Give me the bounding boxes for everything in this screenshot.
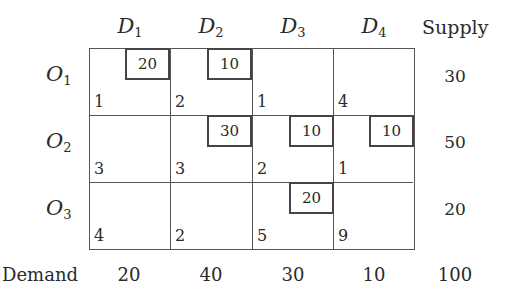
row-subscript: 1 xyxy=(63,73,71,88)
column-header-d1: D1 xyxy=(100,14,160,40)
cell-o2-d1: 3 xyxy=(90,116,171,183)
supply-header: Supply xyxy=(422,16,488,38)
cell-o3-d2: 2 xyxy=(171,183,253,249)
cell-o1-d4: 4 xyxy=(334,49,413,116)
supply-o1: 30 xyxy=(430,66,480,86)
cell-o2-d4: 10 1 xyxy=(334,116,413,183)
cost-value: 1 xyxy=(257,92,267,111)
column-subscript: 4 xyxy=(378,25,386,40)
row-header-o2: O2 xyxy=(46,129,86,155)
cell-o1-d2: 10 2 xyxy=(171,49,253,116)
row-letter: O xyxy=(46,196,63,220)
row-subscript: 2 xyxy=(63,140,71,155)
cell-o1-d3: 1 xyxy=(253,49,334,116)
cell-o3-d3: 20 5 xyxy=(253,183,334,249)
supply-o2: 50 xyxy=(430,132,480,152)
cell-o3-d1: 4 xyxy=(90,183,171,249)
column-subscript: 1 xyxy=(134,25,142,40)
cost-value: 4 xyxy=(94,226,104,245)
column-letter: D xyxy=(117,14,134,38)
cost-value: 3 xyxy=(94,159,104,178)
total-value: 100 xyxy=(425,264,485,285)
column-header-d2: D2 xyxy=(181,14,241,40)
cost-value: 1 xyxy=(338,159,348,178)
cost-value: 3 xyxy=(175,159,185,178)
cost-value: 4 xyxy=(338,92,348,111)
column-subscript: 3 xyxy=(297,25,305,40)
cost-value: 2 xyxy=(175,92,185,111)
supply-o3: 20 xyxy=(430,199,480,219)
cost-value: 5 xyxy=(257,226,267,245)
row-header-o1: O1 xyxy=(46,62,86,88)
cell-o1-d1: 20 1 xyxy=(90,49,171,116)
demand-d4: 10 xyxy=(344,264,404,285)
cost-value: 2 xyxy=(257,159,267,178)
cell-o2-d3: 10 2 xyxy=(253,116,334,183)
cost-value: 2 xyxy=(175,226,185,245)
allocation-box: 20 xyxy=(125,48,170,80)
demand-d2: 40 xyxy=(181,264,241,285)
demand-d3: 30 xyxy=(263,264,323,285)
row-letter: O xyxy=(46,62,63,86)
allocation-box: 30 xyxy=(207,115,252,147)
column-letter: D xyxy=(361,14,378,38)
allocation-box: 20 xyxy=(289,182,334,214)
cost-value: 9 xyxy=(338,226,348,245)
row-header-o3: O3 xyxy=(46,196,86,222)
allocation-box: 10 xyxy=(289,115,334,147)
column-letter: D xyxy=(198,14,215,38)
column-letter: D xyxy=(280,14,297,38)
cost-value: 1 xyxy=(94,92,104,111)
row-letter: O xyxy=(46,129,63,153)
demand-label: Demand xyxy=(2,264,78,285)
column-header-d4: D4 xyxy=(344,14,404,40)
allocation-box: 10 xyxy=(369,115,414,147)
column-header-d3: D3 xyxy=(263,14,323,40)
transportation-grid: 20 1 10 2 1 4 3 30 3 10 2 10 1 4 2 20 5 … xyxy=(89,48,415,250)
column-subscript: 2 xyxy=(215,25,223,40)
cell-o3-d4: 9 xyxy=(334,183,413,249)
row-subscript: 3 xyxy=(63,207,71,222)
cell-o2-d2: 30 3 xyxy=(171,116,253,183)
allocation-box: 10 xyxy=(207,48,252,80)
demand-d1: 20 xyxy=(99,264,159,285)
